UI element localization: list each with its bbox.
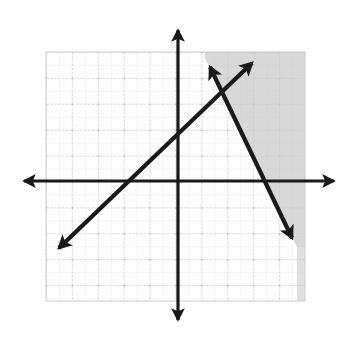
- solution-region-shading-top: [205, 52, 305, 58]
- solution-region-shading-bottom: [297, 247, 305, 301]
- graph-container: [0, 0, 351, 346]
- coordinate-plane-graphic: [0, 0, 351, 346]
